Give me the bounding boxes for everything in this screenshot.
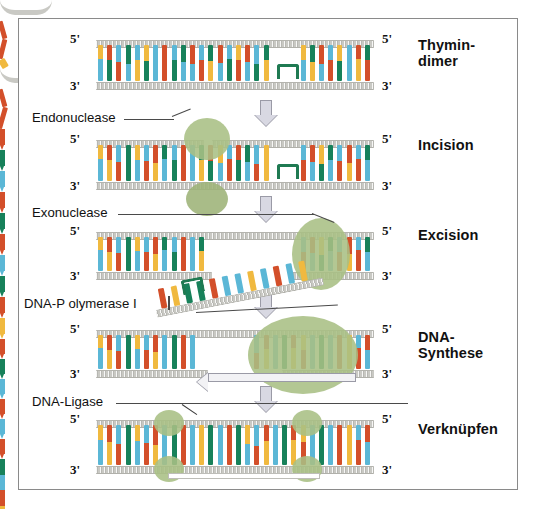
dna-row-thymin-dimer-backbone-bottom-0	[96, 82, 374, 90]
dna-row-thymin-dimer-base-top-23	[310, 45, 315, 62]
dna-row-incision-base-bottom-10	[190, 164, 195, 181]
endonuclease-blob-lower	[186, 182, 228, 216]
dna-row-thymin-dimer-base-top-2	[116, 45, 121, 62]
dna-row-excision-base-top-29	[365, 237, 370, 252]
synthesis-arrow-shaft	[208, 373, 356, 382]
dna-row-thymin-dimer-base-top-15	[236, 45, 241, 60]
excised-base-6	[234, 273, 244, 294]
dna-row-excision-base-bottom-5	[144, 252, 149, 271]
dna-row-incision-base-bottom-1	[107, 160, 112, 181]
dna-row-synthese-base-top-10	[190, 335, 195, 353]
dna-row-excision-base-bottom-0	[98, 250, 103, 271]
excision-free-base-3	[0, 192, 5, 208]
dna-row-excision-base-bottom-1	[107, 252, 112, 271]
dna-row-thymin-dimer	[96, 40, 374, 88]
dna-row-incision-base-bottom-26	[337, 161, 342, 181]
dna-row-incision-base-bottom-7	[162, 159, 167, 181]
dna-row-verknuepfen-base-bottom-26	[337, 443, 342, 465]
stage-title-dna-synthese: DNA- Synthese	[418, 330, 483, 361]
dna-row-thymin-dimer-base-bottom-29	[365, 60, 370, 81]
stage-title-verknuepfen: Verknüpfen	[418, 422, 498, 438]
step-arrow-1-head	[255, 115, 277, 126]
dna-row-excision-base-top-9	[181, 237, 186, 253]
figure-root: 5'3'3'5'5'3'3'5'5'3'3'5'5'3'3'5'5'3'3'5'…	[0, 0, 540, 509]
dna-row-thymin-dimer-base-bottom-23	[310, 62, 315, 81]
dna-row-thymin-dimer-base-top-28	[356, 45, 361, 59]
excision-free-base-9	[0, 318, 5, 334]
dna-row-verknuepfen-base-bottom-29	[365, 442, 370, 465]
dna-row-incision-base-top-26	[337, 145, 342, 161]
prime-label-verknuepfen-left-5: 5'	[70, 411, 80, 427]
dna-row-incision-base-bottom-14	[227, 159, 232, 181]
dna-row-thymin-dimer-base-top-13	[218, 45, 223, 63]
dna-row-synthese-base-top-3	[126, 335, 131, 353]
dna-row-verknuepfen-base-bottom-19	[273, 443, 278, 465]
dna-row-incision-base-top-2	[116, 145, 121, 162]
dna-row-thymin-dimer-base-top-14	[227, 45, 232, 59]
dna-row-thymin-dimer-base-top-12	[208, 45, 213, 61]
excision-free-base-5	[0, 234, 5, 250]
tilted-base-left-2	[0, 89, 7, 108]
dna-row-incision-base-bottom-17	[254, 164, 259, 181]
dna-row-synthese-base-top-0	[98, 335, 103, 348]
dna-row-incision-base-top-29	[365, 145, 370, 160]
dna-polymerase-blob	[248, 316, 358, 394]
dna-row-thymin-dimer-base-bottom-15	[236, 60, 241, 81]
prime-label-thymin-dimer-right-3: 3'	[382, 78, 392, 94]
prime-label-excision-left-5: 5'	[70, 223, 80, 239]
dna-row-synthese-backbone-bottom-0	[96, 370, 208, 378]
dna-row-thymin-dimer-base-bottom-10	[190, 64, 195, 81]
dna-row-thymin-dimer-base-bottom-6	[153, 63, 158, 81]
dna-row-thymin-dimer-base-top-26	[337, 45, 342, 61]
dna-row-synthese-base-bottom-2	[116, 351, 121, 369]
dna-row-thymin-dimer-base-top-3	[126, 45, 131, 64]
dna-row-synthese-base-bottom-7	[162, 348, 167, 369]
excised-base-9	[273, 266, 283, 287]
dna-row-thymin-dimer-base-bottom-2	[116, 62, 121, 81]
dna-row-verknuepfen-base-top-0	[98, 425, 103, 440]
dna-row-thymin-dimer-base-bottom-16	[245, 62, 250, 81]
dna-row-incision-base-top-17	[254, 145, 259, 164]
excision-free-base-4	[0, 213, 5, 229]
dna-row-synthese-base-bottom-5	[144, 350, 149, 369]
dna-row-verknuepfen	[96, 420, 374, 472]
dna-row-thymin-dimer-base-top-17	[254, 45, 259, 64]
bottom-strand-bulge-1	[0, 0, 52, 15]
synth-free-base-3	[0, 399, 5, 414]
dna-row-thymin-dimer-base-top-10	[190, 45, 195, 64]
dna-row-verknuepfen-base-top-10	[190, 425, 195, 446]
dna-row-excision-base-bottom-3	[126, 255, 131, 271]
dna-row-verknuepfen-base-bottom-16	[245, 444, 250, 465]
dna-row-excision-base-bottom-8	[172, 252, 177, 271]
dna-row-verknuepfen-base-top-25	[328, 425, 333, 441]
dna-row-thymin-dimer-base-bottom-14	[227, 59, 232, 81]
prime-label-thymin-dimer-left-5: 5'	[70, 31, 80, 47]
synth-free-base-0	[0, 339, 5, 354]
dna-row-verknuepfen-base-top-16	[245, 425, 250, 444]
dna-row-verknuepfen-base-top-13	[218, 425, 223, 445]
dna-row-excision-base-top-3	[126, 237, 131, 255]
dna-row-excision-base-bottom-4	[135, 251, 140, 271]
excision-free-base-2	[0, 171, 5, 187]
dna-row-incision-base-bottom-16	[245, 162, 250, 181]
dna-row-verknuepfen-base-bottom-11	[199, 441, 204, 465]
stage-title-excision: Excision	[418, 228, 478, 244]
dna-row-verknuepfen-base-top-4	[135, 425, 140, 441]
dna-row-verknuepfen-base-bottom-4	[135, 441, 140, 465]
dna-row-synthese-base-bottom-6	[153, 352, 158, 369]
stage-title-thymin-dimer: Thymin- dimer	[418, 38, 475, 69]
dna-row-verknuepfen-base-top-12	[208, 425, 213, 443]
excised-base-5	[222, 276, 232, 297]
dna-row-incision-base-bottom-18	[264, 160, 269, 181]
dna-row-verknuepfen-base-top-1	[107, 425, 112, 442]
dna-row-verknuepfen-base-bottom-10	[190, 446, 195, 465]
leader-polymerase-tick	[168, 296, 170, 310]
dna-row-incision-base-bottom-15	[236, 160, 241, 181]
dna-row-incision-base-top-15	[236, 145, 241, 160]
excised-base-7	[247, 271, 257, 292]
dna-row-synthese-base-bottom-9	[181, 351, 186, 369]
dna-row-verknuepfen-base-bottom-28	[356, 440, 361, 465]
dna-row-excision-base-top-11	[199, 237, 204, 251]
dna-row-excision-base-top-6	[153, 237, 158, 254]
step-arrow-2-shaft	[260, 196, 272, 212]
